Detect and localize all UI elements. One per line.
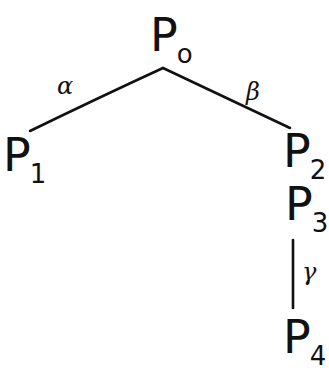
- node-p3-subscript: 3: [312, 208, 327, 238]
- node-p4-subscript: 4: [310, 341, 325, 368]
- tree-diagram: Po P1 P2 P3 P4 α β γ: [0, 0, 329, 368]
- edge-label-alpha: α: [57, 74, 73, 98]
- node-p2: P2: [283, 128, 324, 174]
- node-p3: P3: [285, 181, 326, 227]
- edge-p0-p1: [30, 68, 163, 131]
- node-p0: Po: [150, 12, 191, 58]
- edge-label-gamma: γ: [302, 260, 316, 284]
- node-p4: P4: [283, 314, 324, 360]
- node-p1-letter: P: [3, 128, 29, 182]
- node-p1-subscript: 1: [30, 159, 45, 189]
- node-p0-letter: P: [150, 8, 176, 62]
- edge-p0-p2: [163, 68, 290, 128]
- node-p3-letter: P: [285, 177, 311, 231]
- edge-label-beta: β: [246, 80, 260, 104]
- node-p4-letter: P: [283, 310, 309, 364]
- node-p0-subscript: o: [177, 39, 191, 69]
- node-p1: P1: [3, 132, 44, 178]
- node-p2-letter: P: [283, 124, 309, 178]
